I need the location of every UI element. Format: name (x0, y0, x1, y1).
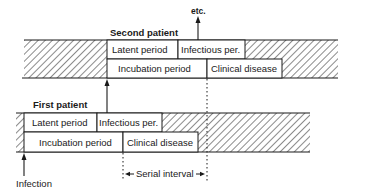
hatched-region-after-infectious (162, 113, 310, 132)
hatched-region-after-clinical (282, 59, 338, 78)
etc-arrow: etc. (191, 6, 206, 40)
clinical-disease-label: Clinical disease (127, 137, 193, 148)
arrow-up-icon (22, 153, 27, 160)
incubation-period-label: Incubation period (39, 137, 112, 148)
latent-period-label: Latent period (112, 44, 167, 55)
hatched-region-before-infection (24, 40, 107, 78)
infectious-period-label: Infectious per. (181, 44, 240, 55)
etc-label: etc. (191, 6, 206, 16)
first-patient-band: Latent period Infectious per. Incubation… (16, 99, 310, 152)
second-patient-band: Latent period Infectious per. Incubation… (22, 27, 338, 78)
infection-label: Infection (16, 178, 52, 189)
transmission-timeline-diagram: Latent period Infectious per. Incubation… (0, 0, 369, 196)
hatched-region-after-clinical (198, 132, 310, 152)
arrow-up-icon (105, 79, 110, 86)
incubation-period-label: Incubation period (118, 63, 191, 74)
arrow-right-icon (200, 172, 205, 176)
hatched-region-after-infectious (245, 40, 338, 59)
serial-interval-label: Serial interval (136, 168, 194, 179)
first-patient-label: First patient (33, 99, 88, 110)
second-patient-label: Second patient (110, 27, 179, 38)
arrow-left-icon (125, 172, 130, 176)
arrow-up-icon (196, 16, 201, 23)
clinical-disease-label: Clinical disease (211, 63, 277, 74)
infection-arrow: Infection (16, 153, 52, 189)
hatched-region-before-infection (16, 113, 24, 152)
infectious-period-label: Infectious per. (99, 117, 158, 128)
transmission-arrow (105, 79, 110, 113)
latent-period-label: Latent period (32, 117, 87, 128)
